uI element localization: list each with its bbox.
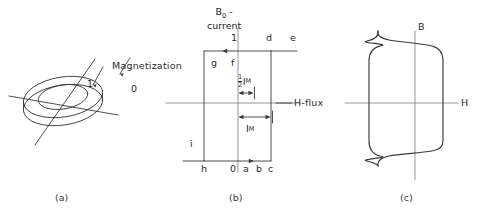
state-one-label: 1	[87, 79, 93, 89]
node-label-e: e	[290, 33, 296, 43]
figure-vector-canvas	[0, 0, 481, 221]
panel-a-core-group	[9, 58, 130, 145]
full-im-subscript: M	[249, 125, 255, 133]
half-fraction-icon: 1 2	[238, 74, 242, 89]
panel-c-hysteresis-group	[345, 31, 458, 180]
magnetization-arc-inner	[93, 67, 103, 85]
figure-magnetic-core-memory: Magnetization 1 0 B0 - current 1 d e g f…	[0, 0, 481, 221]
node-label-d: d	[266, 33, 272, 43]
node-label-a: a	[243, 164, 249, 174]
half-numerator: 1	[238, 74, 242, 81]
half-im-subscript: M	[245, 77, 251, 85]
node-label-c: c	[268, 164, 273, 174]
bottom-edge-flow-arrow	[249, 159, 254, 164]
hysteresis-branch-descending	[365, 31, 383, 166]
caption-panel-a: (a)	[55, 192, 68, 203]
b0-current-word: current	[207, 20, 241, 31]
node-label-h: h	[201, 164, 207, 174]
magnetization-label: Magnetization	[112, 61, 182, 71]
node-label-g: g	[211, 58, 217, 68]
node-label-origin: 0	[230, 164, 236, 174]
node-label-one: 1	[231, 33, 237, 43]
full-im-arrow-right	[266, 115, 271, 119]
b0-current-axis-label: B0 - current	[207, 6, 241, 32]
full-im-arrow-left	[239, 115, 244, 119]
node-label-f: f	[231, 58, 235, 68]
state-zero-label: 0	[131, 84, 137, 94]
h-flux-axis-label: H-flux	[294, 98, 323, 108]
b-axis-label: B	[418, 22, 425, 32]
b0-current-dash: -	[226, 6, 232, 17]
caption-panel-c: (c)	[400, 192, 413, 203]
hysteresis-branch-ascending	[378, 31, 443, 166]
half-im-arrow-left	[239, 91, 244, 95]
panel-b-diagram-group	[166, 28, 300, 172]
h-axis-label: H	[461, 98, 468, 108]
full-im-dimension-label: IM	[246, 123, 254, 134]
half-denominator: 2	[238, 81, 242, 89]
half-im-dimension-label: 1 2 IM	[238, 74, 251, 89]
node-label-b: b	[256, 164, 262, 174]
toroid-inner-hole	[36, 81, 89, 113]
half-im-arrow-right	[249, 91, 254, 95]
node-label-i: i	[190, 139, 193, 149]
top-edge-flow-arrow	[222, 49, 227, 54]
caption-panel-b: (b)	[229, 192, 242, 203]
